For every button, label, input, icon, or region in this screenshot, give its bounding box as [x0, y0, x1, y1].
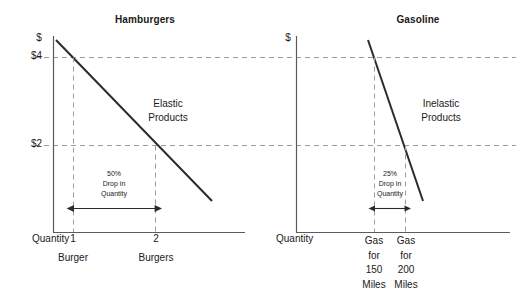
- hamburgers-demand-curve: [56, 40, 212, 201]
- gasoline-curve-label: Inelastic Products: [421, 97, 460, 124]
- hamburgers-curve-label-line1: Elastic: [148, 97, 187, 111]
- gasoline-y-axis-unit: $: [285, 33, 291, 44]
- hamburgers-x-axis-name: Quantity: [32, 234, 69, 245]
- hamburgers-drop-line3: Quantity: [101, 189, 127, 199]
- gasoline-drop-annotation: 25% Drop in Quantity: [377, 169, 403, 199]
- gasoline-curve-label-line2: Products: [421, 111, 460, 125]
- hamburgers-drop-line1: 50%: [101, 169, 127, 179]
- elasticity-figure: Hamburgers $ $4 $2 Quantity 1 2 Burger B…: [0, 0, 529, 293]
- hamburgers-drop-annotation: 50% Drop in Quantity: [101, 169, 127, 199]
- hamburgers-xtick-sublabel-1: Burger: [58, 251, 88, 266]
- gasoline-xtick1-line2: for: [362, 249, 385, 264]
- hamburgers-xtick-sublabel-2: Burgers: [138, 251, 173, 266]
- gasoline-xtick2-line3: 200: [394, 263, 417, 278]
- figure-canvas: [0, 0, 529, 293]
- gasoline-xtick1-line4: Miles: [362, 278, 385, 293]
- hamburgers-drop-line2: Drop in: [101, 179, 127, 189]
- hamburgers-ytick-4: $4: [31, 51, 42, 62]
- gasoline-xtick-block-2: Gas for 200 Miles: [394, 234, 417, 292]
- hamburgers-panel: [53, 36, 245, 233]
- gasoline-xtick2-line1: Gas: [394, 234, 417, 249]
- hamburgers-y-axis-unit: $: [36, 33, 42, 44]
- gasoline-panel: [296, 36, 510, 233]
- gasoline-drop-line3: Quantity: [377, 189, 403, 199]
- hamburgers-curve-label-line2: Products: [148, 111, 187, 125]
- gasoline-drop-line2: Drop in: [377, 179, 403, 189]
- hamburgers-xtick-2: 2: [153, 234, 159, 245]
- gasoline-title: Gasoline: [396, 15, 439, 26]
- gasoline-xtick1-line1: Gas: [362, 234, 385, 249]
- hamburgers-curve-label: Elastic Products: [148, 97, 187, 124]
- hamburgers-xtick-1: 1: [70, 234, 76, 245]
- gasoline-x-axis-name: Quantity: [276, 234, 313, 245]
- gasoline-drop-line1: 25%: [377, 169, 403, 179]
- gasoline-xtick-block-1: Gas for 150 Miles: [362, 234, 385, 292]
- gasoline-curve-label-line1: Inelastic: [421, 97, 460, 111]
- hamburgers-ytick-2: $2: [31, 139, 42, 150]
- hamburgers-title: Hamburgers: [115, 15, 175, 26]
- gasoline-xtick1-line3: 150: [362, 263, 385, 278]
- gasoline-xtick2-line2: for: [394, 249, 417, 264]
- gasoline-xtick2-line4: Miles: [394, 278, 417, 293]
